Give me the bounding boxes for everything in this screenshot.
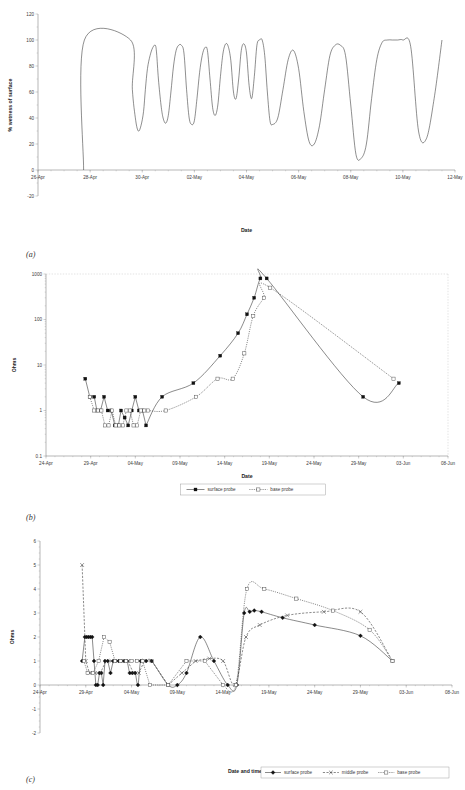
chart-c-canvas: -2-1012345624-Apr29-Apr04-May09-May14-Ma… bbox=[0, 525, 465, 790]
data-marker bbox=[231, 377, 234, 380]
data-marker bbox=[130, 659, 133, 662]
data-marker bbox=[145, 424, 148, 427]
series-base-probe bbox=[88, 283, 395, 427]
svg-text:-20: -20 bbox=[27, 194, 34, 199]
svg-text:19-May: 19-May bbox=[262, 461, 278, 466]
svg-text:base probe: base probe bbox=[397, 770, 420, 775]
data-marker bbox=[106, 409, 109, 412]
svg-text:5: 5 bbox=[33, 563, 36, 568]
svg-text:surface probe: surface probe bbox=[284, 770, 313, 775]
svg-text:10-May: 10-May bbox=[395, 175, 411, 180]
data-marker bbox=[237, 332, 240, 335]
chart-panel-a: -2002040608010012026-Apr28-Apr30-Apr02-M… bbox=[0, 0, 465, 262]
svg-text:3: 3 bbox=[33, 611, 36, 616]
svg-text:04-May: 04-May bbox=[239, 175, 255, 180]
data-marker bbox=[392, 377, 395, 380]
svg-text:80: 80 bbox=[29, 64, 35, 69]
svg-text:19-May: 19-May bbox=[261, 690, 277, 695]
svg-text:2: 2 bbox=[33, 635, 36, 640]
svg-text:middle probe: middle probe bbox=[342, 770, 369, 775]
series-path bbox=[90, 283, 394, 425]
data-marker bbox=[96, 409, 99, 412]
svg-text:1: 1 bbox=[39, 408, 42, 413]
data-marker bbox=[108, 671, 112, 675]
data-marker bbox=[194, 395, 197, 398]
svg-text:29-Apr: 29-Apr bbox=[79, 690, 93, 695]
data-marker bbox=[161, 395, 164, 398]
data-marker bbox=[135, 659, 138, 662]
svg-text:surface probe: surface probe bbox=[208, 487, 237, 492]
svg-text:20: 20 bbox=[29, 142, 35, 147]
svg-text:Ohms: Ohms bbox=[11, 358, 17, 373]
data-marker bbox=[164, 409, 167, 412]
data-marker bbox=[234, 683, 237, 686]
data-marker bbox=[93, 409, 96, 412]
svg-text:100: 100 bbox=[34, 317, 42, 322]
chart-b-legend: surface probebase probe bbox=[181, 484, 326, 495]
series-middle-probe bbox=[80, 563, 394, 687]
data-marker bbox=[100, 409, 103, 412]
wetness-trace bbox=[81, 28, 442, 170]
svg-text:% wetness of surface: % wetness of surface bbox=[7, 79, 13, 132]
data-marker bbox=[139, 409, 142, 412]
svg-text:28-Apr: 28-Apr bbox=[83, 175, 97, 180]
data-marker bbox=[265, 277, 268, 280]
svg-text:1000: 1000 bbox=[32, 272, 43, 277]
panel-b-tag: (b) bbox=[26, 506, 35, 524]
svg-text:Date: Date bbox=[241, 473, 252, 479]
svg-text:Ohms: Ohms bbox=[9, 630, 15, 645]
data-marker bbox=[219, 354, 222, 357]
data-marker bbox=[114, 424, 117, 427]
data-marker bbox=[397, 382, 400, 385]
svg-text:100: 100 bbox=[26, 38, 34, 43]
data-marker bbox=[269, 286, 272, 289]
data-marker bbox=[175, 683, 179, 687]
svg-text:26-Apr: 26-Apr bbox=[31, 175, 45, 180]
data-marker bbox=[102, 635, 105, 638]
data-marker bbox=[257, 488, 260, 491]
svg-text:08-May: 08-May bbox=[343, 175, 359, 180]
svg-text:24-May: 24-May bbox=[307, 690, 323, 695]
data-marker bbox=[121, 424, 124, 427]
svg-text:03-Jun: 03-Jun bbox=[396, 461, 410, 466]
svg-text:09-May: 09-May bbox=[170, 690, 186, 695]
svg-text:04-May: 04-May bbox=[128, 461, 144, 466]
svg-text:6: 6 bbox=[33, 539, 36, 544]
data-marker bbox=[246, 313, 249, 316]
chart-panel-b: 0.1110100100024-Apr29-Apr04-May09-May14-… bbox=[0, 258, 465, 528]
data-marker bbox=[143, 409, 146, 412]
svg-text:0: 0 bbox=[31, 168, 34, 173]
data-marker bbox=[359, 610, 363, 614]
data-marker bbox=[385, 771, 388, 774]
data-marker bbox=[262, 296, 265, 299]
chart-a-canvas: -2002040608010012026-Apr28-Apr30-Apr02-M… bbox=[0, 0, 465, 262]
data-marker bbox=[127, 424, 130, 427]
data-marker bbox=[391, 659, 394, 662]
data-marker bbox=[113, 659, 116, 662]
data-marker bbox=[222, 683, 225, 686]
svg-text:14-May: 14-May bbox=[217, 461, 233, 466]
data-marker bbox=[313, 623, 317, 627]
data-marker bbox=[136, 424, 139, 427]
data-marker bbox=[243, 352, 246, 355]
data-marker bbox=[97, 659, 100, 662]
data-marker bbox=[86, 671, 89, 674]
data-marker bbox=[128, 409, 131, 412]
svg-text:Date: Date bbox=[241, 227, 252, 233]
data-marker bbox=[146, 409, 149, 412]
data-marker bbox=[295, 597, 298, 600]
data-marker bbox=[180, 671, 184, 675]
data-marker bbox=[103, 424, 106, 427]
data-marker bbox=[221, 659, 225, 663]
svg-text:08-Jun: 08-Jun bbox=[441, 461, 455, 466]
data-marker bbox=[167, 683, 170, 686]
data-marker bbox=[203, 659, 206, 662]
svg-text:0: 0 bbox=[33, 683, 36, 688]
data-marker bbox=[119, 659, 122, 662]
data-marker bbox=[194, 488, 197, 491]
svg-text:29-May: 29-May bbox=[351, 461, 367, 466]
data-marker bbox=[258, 623, 262, 627]
svg-text:12-May: 12-May bbox=[447, 175, 463, 180]
data-marker bbox=[132, 424, 135, 427]
series-wetness bbox=[81, 28, 442, 170]
